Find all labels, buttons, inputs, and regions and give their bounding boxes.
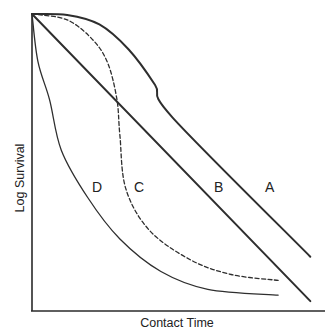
curve-c	[32, 14, 278, 280]
survival-curve-chart: D C B A Contact Time Log Survival	[0, 0, 334, 332]
curve-b	[32, 14, 310, 301]
x-axis-title: Contact Time	[140, 316, 214, 330]
curve-a	[32, 14, 310, 257]
curve-label-a: A	[265, 179, 275, 195]
curve-label-b: B	[214, 179, 223, 195]
curve-label-d: D	[92, 179, 102, 195]
y-axis-title: Log Survival	[13, 144, 27, 213]
curve-label-c: C	[134, 179, 144, 195]
curve-d	[32, 14, 278, 295]
